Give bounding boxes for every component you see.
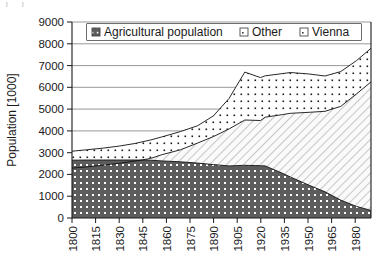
x-tick-label: 1860 (161, 226, 173, 252)
x-tick-label: 1935 (279, 226, 291, 252)
legend-label-vienna: Vienna (312, 25, 349, 39)
chart-legend[interactable]: Agricultural population Other Vienna (87, 24, 362, 41)
chart-figure: 0 1000 2000 3000 4000 5000 6000 7000 800… (0, 0, 388, 265)
legend-swatch-other-icon (240, 28, 248, 36)
x-tick-label: 1965 (326, 226, 338, 252)
y-tick-label: 3000 (38, 147, 64, 159)
y-tick-label: 0 (58, 212, 64, 224)
y-tick-label: 5000 (38, 103, 64, 115)
x-tick-label: 1815 (90, 226, 102, 252)
x-tick-label: 1920 (255, 226, 267, 252)
x-tick-label: 1980 (350, 226, 362, 252)
y-axis-ticks (67, 22, 72, 218)
y-tick-label: 7000 (38, 60, 64, 72)
scan-artifact-top-left (6, 2, 24, 7)
x-tick-label: 1800 (67, 226, 79, 252)
x-axis-tick-labels: 1800 1815 1830 1845 1860 1875 1890 1905 … (67, 226, 362, 252)
y-tick-label: 2000 (38, 168, 64, 180)
population-stacked-area-chart: 0 1000 2000 3000 4000 5000 6000 7000 800… (0, 0, 388, 265)
y-axis-title: Population [1000] (5, 73, 19, 166)
legend-swatch-vienna-icon (300, 28, 308, 36)
y-tick-label: 8000 (38, 38, 64, 50)
x-tick-label: 1875 (185, 226, 197, 252)
y-tick-label: 9000 (38, 16, 64, 28)
x-tick-label: 1905 (232, 226, 244, 252)
legend-swatch-agricultural-icon (92, 28, 100, 36)
x-tick-label: 1890 (208, 226, 220, 252)
x-tick-label: 1830 (114, 226, 126, 252)
y-tick-label: 1000 (38, 190, 64, 202)
y-tick-label: 6000 (38, 81, 64, 93)
x-axis-ticks (72, 218, 355, 223)
y-tick-label: 4000 (38, 125, 64, 137)
legend-label-agricultural-population: Agricultural population (104, 25, 223, 39)
x-tick-label: 1950 (303, 226, 315, 252)
legend-label-other: Other (252, 25, 282, 39)
x-tick-label: 1845 (137, 226, 149, 252)
legend-item-agricultural-population[interactable]: Agricultural population (92, 25, 223, 39)
y-axis-tick-labels: 0 1000 2000 3000 4000 5000 6000 7000 800… (38, 16, 64, 224)
